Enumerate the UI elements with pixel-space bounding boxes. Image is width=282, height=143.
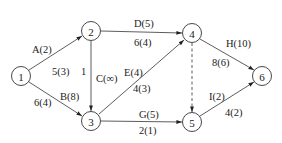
node-4: 4 xyxy=(183,24,202,43)
node-3: 3 xyxy=(82,112,101,131)
edge-value-b: 6(4) xyxy=(34,97,52,109)
edge-3-5 xyxy=(101,121,182,122)
edge-label-b: B(8) xyxy=(60,91,80,103)
edge-value-g: 2(1) xyxy=(139,125,157,137)
svg-text:5: 5 xyxy=(189,117,195,129)
edge-label-i: I(2) xyxy=(209,91,225,103)
edge-label-g: G(5) xyxy=(139,109,159,121)
edge-value-h: 8(6) xyxy=(212,57,230,69)
node-2: 2 xyxy=(82,22,101,41)
edge-2-4 xyxy=(101,31,182,33)
edge-label-a: A(2) xyxy=(32,44,52,56)
edge-value-i: 4(2) xyxy=(225,107,243,119)
edge-value-d: 6(4) xyxy=(134,37,152,49)
svg-text:6: 6 xyxy=(259,71,265,83)
edge-label-d: D(5) xyxy=(134,18,154,30)
edge-value-c: 1 xyxy=(81,66,86,77)
node-6: 6 xyxy=(253,67,272,86)
svg-text:1: 1 xyxy=(18,71,24,83)
svg-text:2: 2 xyxy=(88,26,94,38)
svg-text:3: 3 xyxy=(88,116,94,128)
edge-value-a: 5(3) xyxy=(52,66,70,78)
edge-label-c: C(∞) xyxy=(96,73,118,85)
edge-label-h: H(10) xyxy=(226,38,252,50)
edge-value-e: 4(3) xyxy=(133,83,151,95)
node-1: 1 xyxy=(12,67,31,86)
svg-text:4: 4 xyxy=(189,28,195,40)
node-5: 5 xyxy=(183,113,202,132)
network-diagram: A(2) 5(3) B(8) 6(4) C(∞) 1 D(5) 6(4) E(4… xyxy=(0,0,282,143)
edge-label-e: E(4) xyxy=(124,67,143,79)
